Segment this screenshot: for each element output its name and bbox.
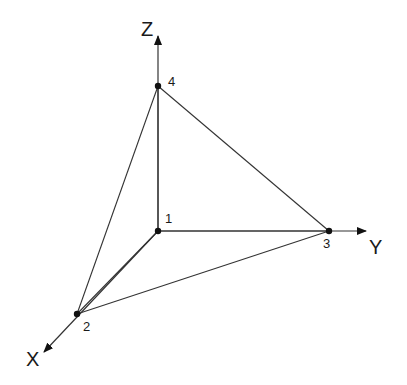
node-4 — [155, 83, 161, 89]
axes — [44, 36, 366, 352]
node-label-2: 2 — [83, 319, 90, 334]
labels: ZYX1234 — [26, 18, 382, 370]
node-label-1: 1 — [165, 211, 172, 226]
node-3 — [326, 228, 332, 234]
edge-2-3 — [77, 231, 329, 314]
axis-label-y: Y — [369, 236, 382, 258]
axis-label-x: X — [26, 348, 39, 370]
nodes — [74, 83, 332, 317]
edge-3-4 — [158, 86, 329, 231]
node-label-4: 4 — [168, 74, 175, 89]
edges — [77, 86, 329, 314]
node-label-3: 3 — [323, 236, 330, 251]
tetrahedron-diagram: ZYX1234 — [0, 0, 407, 385]
edge-2-4 — [77, 86, 158, 314]
node-2 — [74, 311, 80, 317]
edge-1-2 — [77, 231, 158, 314]
axis-label-z: Z — [141, 18, 153, 40]
node-1 — [155, 228, 161, 234]
